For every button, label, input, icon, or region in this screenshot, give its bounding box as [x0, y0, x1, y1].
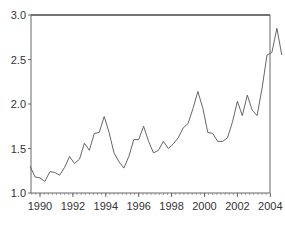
x-tick-label: 2000 — [192, 200, 216, 212]
y-tick-label: 1.0 — [11, 187, 26, 199]
y-tick-label: 3.0 — [11, 9, 26, 21]
y-tick-label: 2.5 — [11, 54, 26, 66]
x-tick-label: 1996 — [126, 200, 150, 212]
x-axis: 19901992199419961998200020022004 — [28, 193, 283, 212]
y-tick-label: 2.0 — [11, 98, 26, 110]
x-tick-label: 2002 — [225, 200, 249, 212]
x-tick-label: 1990 — [28, 200, 52, 212]
series-layer — [30, 28, 282, 181]
x-tick-label: 1992 — [61, 200, 85, 212]
line-chart: 1.01.52.02.53.0 199019921994199619982000… — [0, 0, 285, 228]
x-tick-label: 1998 — [159, 200, 183, 212]
plot-frame — [31, 15, 270, 193]
y-axis: 1.01.52.02.53.0 — [11, 9, 31, 199]
y-tick-label: 1.5 — [11, 143, 26, 155]
x-tick-label: 2004 — [258, 200, 282, 212]
x-tick-label: 1994 — [94, 200, 118, 212]
series-line — [30, 28, 282, 181]
